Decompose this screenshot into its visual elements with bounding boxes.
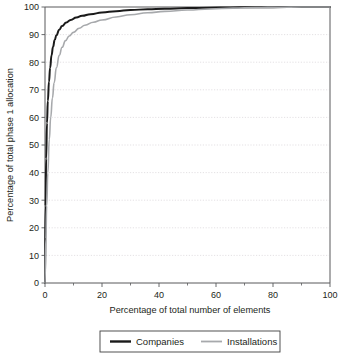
- x-axis-ticks-group: 020406080100: [42, 283, 337, 300]
- y-tick-label-60: 60: [29, 113, 39, 123]
- x-tick-label-100: 100: [322, 290, 337, 300]
- x-tick-label-0: 0: [42, 290, 47, 300]
- y-tick-label-40: 40: [29, 168, 39, 178]
- legend-label-companies: Companies: [136, 336, 184, 347]
- y-axis-title: Percentage of total phase 1 allocation: [5, 68, 15, 222]
- x-axis-title: Percentage of total number of elements: [110, 305, 271, 315]
- chart-legend: Companies Installations: [100, 331, 280, 352]
- y-tick-label-30: 30: [29, 196, 39, 206]
- y-tick-label-80: 80: [29, 58, 39, 68]
- legend-label-installations: Installations: [227, 336, 277, 347]
- y-tick-label-10: 10: [29, 251, 39, 261]
- y-tick-label-0: 0: [34, 278, 39, 288]
- x-tick-label-80: 80: [268, 290, 278, 300]
- y-tick-label-90: 90: [29, 30, 39, 40]
- y-tick-label-20: 20: [29, 223, 39, 233]
- x-tick-label-60: 60: [211, 290, 221, 300]
- x-tick-label-40: 40: [154, 290, 164, 300]
- y-tick-label-100: 100: [24, 2, 39, 12]
- y-axis-ticks-group: 0102030405060708090100: [24, 2, 45, 288]
- y-tick-label-50: 50: [29, 140, 39, 150]
- x-tick-label-20: 20: [97, 290, 107, 300]
- chart-figure: 0102030405060708090100 020406080100 Perc…: [0, 0, 346, 358]
- lorenz-curve-chart: 0102030405060708090100 020406080100 Perc…: [0, 0, 346, 358]
- y-tick-label-70: 70: [29, 85, 39, 95]
